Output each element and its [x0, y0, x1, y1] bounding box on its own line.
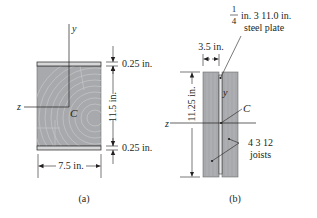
caption-b: (b) — [229, 193, 241, 205]
top-plate-thickness-label: 0.25 in. — [122, 58, 152, 69]
y-axis-label-b: y — [222, 87, 228, 98]
centroid-label-a: C — [70, 107, 78, 119]
height-dimension-label-b: 11.25 in. — [186, 87, 197, 122]
plate-label-line2: steel plate — [244, 22, 285, 33]
height-dimension-label-a: 11.5 in. — [107, 92, 118, 122]
caption-a: (a) — [78, 193, 89, 205]
plate-leader-dot — [219, 77, 221, 79]
joist-dot-left — [211, 160, 213, 162]
centroid-label-b: C — [243, 102, 251, 114]
figure-a: y z C 0.25 in. 11.5 in. 0.25 in. 7.5 in. — [16, 23, 157, 205]
centroid-dot-b — [220, 122, 222, 124]
joist-dot-right — [228, 138, 230, 140]
plate-fraction-numerator: 1 — [232, 4, 237, 14]
width-dimension-label-b: 3.5 in. — [198, 41, 223, 52]
joist-label-line2: joists — [249, 149, 271, 160]
figure-b: 1 4 in. 3 11.0 in. steel plate 3.5 in. 1… — [164, 4, 291, 205]
width-dimension-label-a: 7.5 in. — [58, 160, 83, 171]
joist-label-line1: 4 3 12 — [248, 137, 273, 148]
plate-label-line1: in. 3 11.0 in. — [241, 10, 291, 21]
y-axis-label-a: y — [71, 23, 77, 34]
plate-fraction-denominator: 4 — [232, 16, 237, 26]
bottom-steel-plate — [37, 146, 101, 150]
bottom-plate-thickness-label: 0.25 in. — [122, 142, 152, 153]
steel-plate-b — [219, 75, 222, 174]
width-dimension-b — [203, 54, 219, 66]
z-axis-label-a: z — [16, 101, 21, 112]
z-axis-label-b: z — [164, 118, 169, 129]
